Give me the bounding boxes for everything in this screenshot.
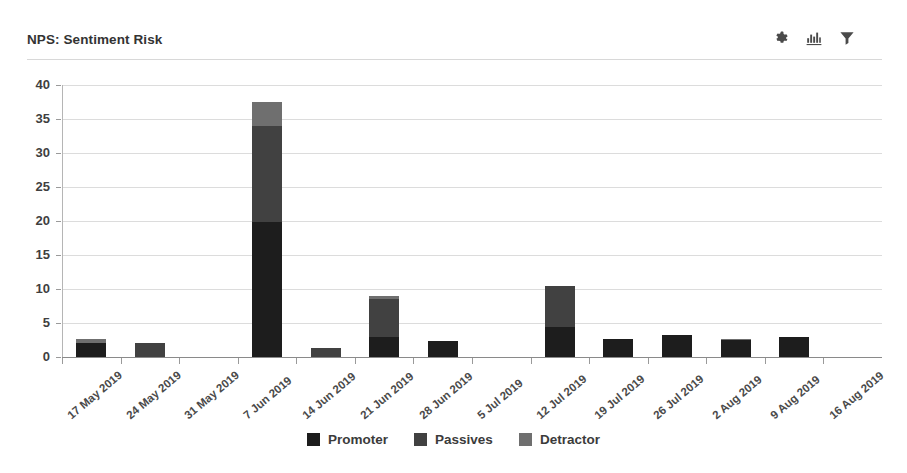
gridline [62, 119, 882, 120]
x-axis-tick [648, 358, 649, 364]
gridline [62, 323, 882, 324]
x-axis-line [62, 357, 882, 358]
y-axis-tick [56, 289, 61, 290]
x-axis-tick [355, 358, 356, 364]
x-axis-tick [62, 358, 63, 364]
y-axis-label: 0 [20, 350, 50, 363]
legend-label: Detractor [540, 432, 600, 447]
x-axis-label: 12 Jul 2019 [534, 373, 589, 422]
y-axis-tick [56, 85, 61, 86]
gridline [62, 289, 882, 290]
y-axis-line [62, 85, 63, 358]
x-axis-label: 31 May 2019 [182, 369, 241, 421]
bar-segment[interactable] [369, 299, 399, 336]
bar-segment[interactable] [779, 337, 809, 357]
x-axis-tick [706, 358, 707, 364]
x-axis-tick [413, 358, 414, 364]
y-axis-label: 40 [20, 78, 50, 91]
x-axis-tick [296, 358, 297, 364]
x-axis-tick [472, 358, 473, 364]
bar-stack[interactable] [311, 348, 341, 357]
bar-stack[interactable] [135, 343, 165, 357]
bar-stack[interactable] [76, 339, 106, 357]
x-axis-tick [179, 358, 180, 364]
x-axis-label: 24 May 2019 [124, 369, 183, 421]
y-axis-label: 20 [20, 214, 50, 227]
x-axis-label: 9 Aug 2019 [768, 373, 822, 421]
y-axis-tick [56, 221, 61, 222]
bar-segment[interactable] [76, 343, 106, 357]
legend-swatch [307, 433, 320, 446]
legend-label: Promoter [328, 432, 388, 447]
y-axis-label: 10 [20, 282, 50, 295]
bar-segment[interactable] [428, 341, 458, 357]
bar-segment[interactable] [662, 335, 692, 357]
legend-label: Passives [435, 432, 493, 447]
bar-stack[interactable] [545, 286, 575, 357]
y-axis-tick [56, 255, 61, 256]
legend-item-detractor[interactable]: Detractor [519, 432, 600, 447]
x-axis-label: 17 May 2019 [65, 369, 124, 421]
chart-legend: PromoterPassivesDetractor [0, 432, 907, 447]
x-axis-tick [765, 358, 766, 364]
x-axis-label: 7 Jun 2019 [241, 374, 294, 421]
bar-segment[interactable] [252, 222, 282, 357]
bar-stack[interactable] [662, 335, 692, 357]
bar-segment[interactable] [545, 286, 575, 327]
bar-segment[interactable] [252, 102, 282, 126]
bar-stack[interactable] [779, 337, 809, 357]
legend-item-passives[interactable]: Passives [414, 432, 493, 447]
gridline [62, 187, 882, 188]
bar-segment[interactable] [369, 337, 399, 357]
bar-segment[interactable] [545, 327, 575, 358]
legend-swatch [519, 433, 532, 446]
gridline [62, 255, 882, 256]
bar-segment[interactable] [76, 339, 106, 343]
bar-segment[interactable] [603, 339, 633, 357]
x-axis-label: 21 Jun 2019 [358, 370, 416, 421]
gridline [62, 221, 882, 222]
x-axis-label: 14 Jun 2019 [300, 370, 358, 421]
bar-segment[interactable] [252, 126, 282, 223]
bar-segment[interactable] [135, 343, 165, 357]
y-axis-tick [56, 323, 61, 324]
plot-area: 051015202530354017 May 201924 May 201931… [0, 0, 907, 473]
bar-segment[interactable] [311, 348, 341, 357]
bar-segment[interactable] [721, 339, 751, 340]
y-axis-label: 25 [20, 180, 50, 193]
y-axis-tick [56, 119, 61, 120]
bar-stack[interactable] [252, 102, 282, 357]
y-axis-label: 35 [20, 112, 50, 125]
chart-widget: NPS: Sentiment Risk [0, 0, 907, 473]
x-axis-tick [531, 358, 532, 364]
x-axis-tick [589, 358, 590, 364]
y-axis-label: 30 [20, 146, 50, 159]
bar-segment[interactable] [721, 340, 751, 357]
y-axis-tick [56, 187, 61, 188]
legend-swatch [414, 433, 427, 446]
y-axis-tick [56, 357, 61, 358]
x-axis-label: 28 Jun 2019 [417, 370, 475, 421]
bar-segment[interactable] [369, 296, 399, 299]
bar-stack[interactable] [603, 339, 633, 357]
y-axis-tick [56, 153, 61, 154]
x-axis-label: 26 Jul 2019 [651, 373, 706, 422]
x-axis-tick [238, 358, 239, 364]
gridline [62, 85, 882, 86]
x-axis-tick [121, 358, 122, 364]
x-axis-label: 16 Aug 2019 [827, 369, 886, 421]
legend-item-promoter[interactable]: Promoter [307, 432, 388, 447]
gridline [62, 153, 882, 154]
x-axis-tick [823, 358, 824, 364]
x-axis-label: 19 Jul 2019 [592, 373, 647, 422]
x-axis-label: 2 Aug 2019 [710, 373, 764, 421]
bar-stack[interactable] [428, 341, 458, 357]
bar-stack[interactable] [369, 296, 399, 357]
x-axis-label: 5 Jul 2019 [475, 377, 525, 422]
y-axis-label: 5 [20, 316, 50, 329]
y-axis-label: 15 [20, 248, 50, 261]
bar-stack[interactable] [721, 339, 751, 357]
